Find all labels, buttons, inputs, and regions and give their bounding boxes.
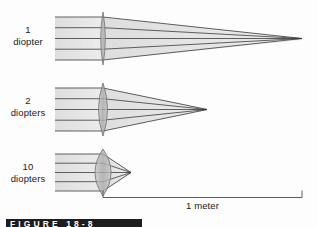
row-2-power-unit: diopters <box>2 107 54 119</box>
scale-bar <box>103 191 302 198</box>
lens-row-10-diopters <box>55 149 131 196</box>
lens-row-2-diopters <box>55 83 207 136</box>
row-1-power-unit: diopter <box>2 36 54 48</box>
row-label-2-diopters: 2 diopters <box>2 95 54 118</box>
row-1-power-value: 1 <box>2 24 54 36</box>
row-3-power-unit: diopters <box>2 173 54 185</box>
scale-bar-label: 1 meter <box>103 200 302 211</box>
lens-row-1-diopter <box>55 12 302 65</box>
row-label-1-diopter: 1 diopter <box>2 24 54 47</box>
optics-figure: 1 diopter 2 diopters 10 diopters 1 meter… <box>0 0 317 227</box>
row-label-10-diopters: 10 diopters <box>2 161 54 184</box>
row-2-power-value: 2 <box>2 95 54 107</box>
row-3-power-value: 10 <box>2 161 54 173</box>
figure-caption-bar: FIGURE 18-8 <box>6 219 142 227</box>
figure-caption-text: FIGURE 18-8 <box>6 219 142 227</box>
